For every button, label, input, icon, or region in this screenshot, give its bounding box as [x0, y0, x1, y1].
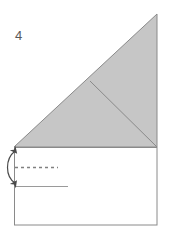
origami-illustration: 4	[0, 0, 172, 239]
origami-step-diagram: 4	[0, 0, 172, 239]
step-number-label: 4	[15, 28, 22, 43]
